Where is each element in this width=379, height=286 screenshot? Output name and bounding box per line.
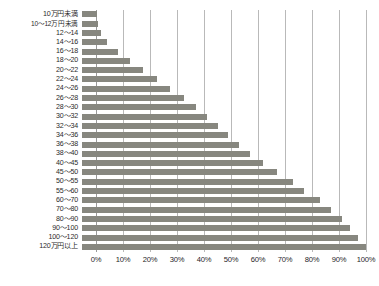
bar bbox=[82, 67, 143, 73]
bar-row bbox=[96, 205, 366, 214]
gridline-100% bbox=[366, 10, 367, 252]
bar bbox=[82, 160, 263, 166]
y-axis-label: 26〜28 bbox=[0, 94, 80, 103]
bar-row bbox=[96, 122, 366, 131]
bar bbox=[82, 225, 350, 231]
bar bbox=[82, 114, 207, 120]
bar bbox=[82, 39, 107, 45]
y-axis-label: 38〜40 bbox=[0, 149, 80, 158]
bar bbox=[82, 86, 170, 92]
bar-row bbox=[96, 29, 366, 38]
bar-row bbox=[96, 233, 366, 242]
y-axis-label: 32〜34 bbox=[0, 122, 80, 131]
bar bbox=[82, 244, 366, 250]
bar-row bbox=[96, 224, 366, 233]
bar-row bbox=[96, 19, 366, 28]
x-axis-tick-label: 100% bbox=[357, 255, 376, 264]
bar-row bbox=[96, 75, 366, 84]
x-axis-tick-label: 40% bbox=[197, 255, 212, 264]
bar-row bbox=[96, 47, 366, 56]
y-axis-label: 28〜30 bbox=[0, 103, 80, 112]
bar-row bbox=[96, 177, 366, 186]
y-axis-label: 40〜45 bbox=[0, 159, 80, 168]
bar bbox=[82, 151, 250, 157]
y-axis-label: 22〜24 bbox=[0, 75, 80, 84]
bar bbox=[82, 207, 331, 213]
y-axis-label: 10〜12万円未満 bbox=[0, 19, 80, 28]
bar-row bbox=[96, 56, 366, 65]
y-axis-label: 80〜90 bbox=[0, 215, 80, 224]
bar-row bbox=[96, 215, 366, 224]
bar-row bbox=[96, 149, 366, 158]
bar-row bbox=[96, 196, 366, 205]
x-axis-tick-label: 0% bbox=[91, 255, 102, 264]
bar bbox=[82, 235, 358, 241]
y-axis-label: 36〜38 bbox=[0, 140, 80, 149]
cumulative-distribution-chart: 10万円未満10〜12万円未満12〜1414〜1616〜1818〜2020〜22… bbox=[0, 0, 379, 286]
bar bbox=[82, 179, 293, 185]
bar-row bbox=[96, 103, 366, 112]
bar-row bbox=[96, 168, 366, 177]
bar-row bbox=[96, 131, 366, 140]
bar-row bbox=[96, 66, 366, 75]
bar-row bbox=[96, 140, 366, 149]
y-axis-label: 16〜18 bbox=[0, 47, 80, 56]
y-axis-label: 45〜50 bbox=[0, 168, 80, 177]
y-axis-label: 60〜70 bbox=[0, 196, 80, 205]
bar bbox=[82, 49, 118, 55]
bar bbox=[82, 11, 97, 17]
bar bbox=[82, 30, 101, 36]
y-axis-label: 55〜60 bbox=[0, 187, 80, 196]
x-axis-tick-labels: 0%10%20%30%40%50%60%70%80%90%100% bbox=[0, 255, 379, 269]
y-axis-label: 120万円以上 bbox=[0, 242, 80, 251]
y-axis-label: 34〜36 bbox=[0, 131, 80, 140]
bar bbox=[82, 95, 184, 101]
y-axis-label: 90〜100 bbox=[0, 224, 80, 233]
bar bbox=[82, 169, 277, 175]
bar bbox=[82, 188, 304, 194]
bar bbox=[82, 216, 342, 222]
x-axis-tick-label: 10% bbox=[116, 255, 131, 264]
y-axis-label: 12〜14 bbox=[0, 29, 80, 38]
y-axis-label: 24〜26 bbox=[0, 84, 80, 93]
bar-row bbox=[96, 159, 366, 168]
bar bbox=[82, 132, 228, 138]
bar-row bbox=[96, 242, 366, 251]
bar bbox=[82, 21, 98, 27]
bar bbox=[82, 76, 157, 82]
bar-row bbox=[96, 187, 366, 196]
bar-row bbox=[96, 38, 366, 47]
bar-row bbox=[96, 84, 366, 93]
bar-row bbox=[96, 10, 366, 19]
x-axis-tick-label: 60% bbox=[251, 255, 266, 264]
x-axis-tick-label: 50% bbox=[224, 255, 239, 264]
y-axis-label: 20〜22 bbox=[0, 66, 80, 75]
y-axis-label: 18〜20 bbox=[0, 56, 80, 65]
bar bbox=[82, 58, 130, 64]
y-axis-label: 10万円未満 bbox=[0, 10, 80, 19]
plot-area bbox=[96, 10, 366, 252]
bar bbox=[82, 123, 218, 129]
x-axis-tick-label: 20% bbox=[143, 255, 158, 264]
y-axis-label: 70〜80 bbox=[0, 205, 80, 214]
x-axis-tick-label: 30% bbox=[170, 255, 185, 264]
bar-row bbox=[96, 94, 366, 103]
bar bbox=[82, 142, 239, 148]
bar-rows bbox=[96, 10, 366, 252]
x-axis-tick-label: 90% bbox=[332, 255, 347, 264]
x-axis-tick-label: 80% bbox=[305, 255, 320, 264]
x-axis-tick-label: 70% bbox=[278, 255, 293, 264]
y-axis-label: 14〜16 bbox=[0, 38, 80, 47]
y-axis-label: 30〜32 bbox=[0, 112, 80, 121]
bar bbox=[82, 197, 320, 203]
bar-row bbox=[96, 112, 366, 121]
bar bbox=[82, 104, 196, 110]
y-axis-label: 50〜55 bbox=[0, 177, 80, 186]
y-axis-category-labels: 10万円未満10〜12万円未満12〜1414〜1616〜1818〜2020〜22… bbox=[0, 10, 80, 252]
